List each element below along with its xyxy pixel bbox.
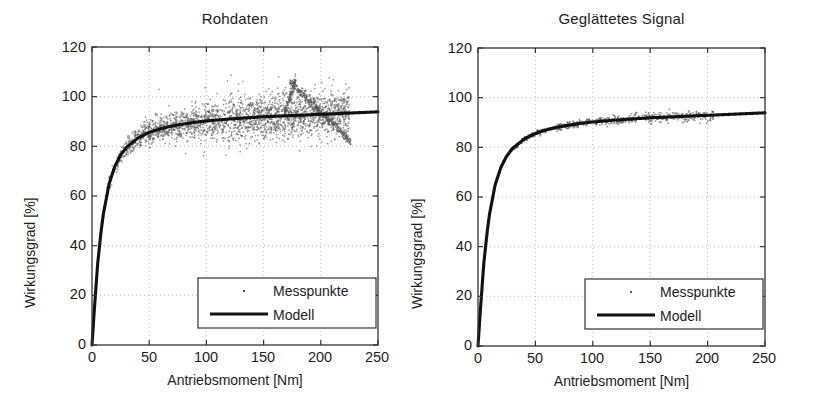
xtick-label: 50 [513,350,557,366]
ytick-label: 100 [42,88,86,104]
xtick-label: 100 [184,349,228,365]
xtick-label: 250 [742,350,786,366]
legend-label-messpunkte: Messpunkte [273,283,348,299]
xtick-label: 50 [127,349,171,365]
panel-geglaettetes-signal: Geglättetes Signal 120 100 80 60 40 20 0… [409,0,818,415]
ytick-label: 120 [428,40,472,56]
ytick-label: 40 [42,237,86,253]
x-axis-label: Antriebsmoment [Nm] [92,372,378,388]
xtick-label: 100 [570,350,614,366]
xtick-label: 200 [298,349,342,365]
x-axis-label: Antriebsmoment [Nm] [478,373,765,389]
figure-two-panel-efficiency-plot: Rohdaten 120 100 80 60 40 20 0 0 50 100 … [0,0,818,415]
ytick-label: 120 [42,39,86,55]
legend-label-messpunkte: Messpunkte [660,284,735,300]
xtick-label: 0 [456,350,500,366]
ytick-label: 60 [42,187,86,203]
ytick-label: 20 [428,287,472,303]
ytick-label: 100 [428,89,472,105]
ytick-label: 80 [428,139,472,155]
ytick-label: 40 [428,238,472,254]
y-axis-label: Wirkungsgrad [%] [409,199,425,309]
ytick-label: 80 [42,138,86,154]
xtick-label: 200 [685,350,729,366]
y-axis-label: Wirkungsgrad [%] [22,198,38,308]
legend-label-modell: Modell [660,308,701,324]
xtick-label: 250 [355,349,399,365]
legend-label-modell: Modell [273,307,314,323]
xtick-label: 150 [628,350,672,366]
xtick-label: 150 [241,349,285,365]
ytick-label: 60 [428,188,472,204]
ytick-label: 20 [42,286,86,302]
panel-rohdaten: Rohdaten 120 100 80 60 40 20 0 0 50 100 … [0,0,409,415]
xtick-label: 0 [70,349,114,365]
